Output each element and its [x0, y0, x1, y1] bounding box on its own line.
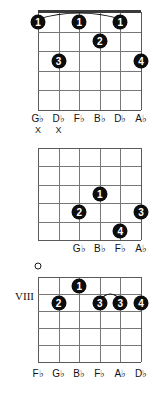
- finger-dot-3-s4-f2: 3: [92, 295, 107, 310]
- fret-line-3: [38, 71, 141, 72]
- fret-line-5: [38, 110, 141, 111]
- note-label-1-s6: A♭: [135, 113, 147, 124]
- fret-line-0: [38, 277, 141, 278]
- note-label-1-s5: D♭: [114, 113, 126, 124]
- note-label-3-s4: F♭: [94, 368, 105, 379]
- finger-dot-1-s4-f3: 1: [92, 187, 107, 202]
- note-label-2-s3: G♭: [73, 243, 86, 254]
- finger-dot-1-s3-f1: 1: [72, 278, 87, 293]
- string-line-2: [59, 148, 60, 240]
- note-label-2-s4: B♭: [94, 243, 106, 254]
- fretboard-grid-3: [38, 277, 141, 362]
- finger-dot-1-s5-f1: 1: [113, 14, 128, 29]
- fret-line-1: [38, 166, 141, 167]
- muted-string-marker-1: X: [35, 126, 41, 135]
- finger-dot-3-s5-f2: 3: [113, 295, 128, 310]
- string-line-6: [141, 277, 142, 362]
- note-label-3-s2: G♭: [52, 368, 65, 379]
- position-marker-3: VIII: [15, 290, 34, 302]
- fret-line-2: [38, 51, 141, 52]
- string-line-4: [100, 12, 101, 110]
- string-line-3: [79, 148, 80, 240]
- finger-dot-3-s2-f3: 3: [51, 54, 66, 69]
- fret-line-1: [38, 294, 141, 295]
- finger-dot-2-s3-f4: 2: [72, 205, 87, 220]
- finger-dot-3-s6-f4: 3: [134, 205, 149, 220]
- fret-line-5: [38, 362, 141, 363]
- fret-line-5: [38, 240, 141, 241]
- string-line-2: [59, 277, 60, 362]
- muted-string-marker-2: X: [56, 126, 62, 135]
- note-label-1-s2: D♭: [52, 113, 64, 124]
- note-label-3-s1: F♭: [32, 368, 43, 379]
- finger-dot-4-s6-f3: 4: [134, 54, 149, 69]
- chord-diagram-sheet: 111234G♭D♭F♭B♭D♭A♭XX1234G♭B♭F♭A♭12334F♭G…: [0, 0, 153, 397]
- finger-dot-1-s1-f1: 1: [31, 14, 46, 29]
- note-label-2-s6: A♭: [135, 243, 147, 254]
- finger-dot-4-s6-f2: 4: [134, 295, 149, 310]
- note-label-3-s3: B♭: [73, 368, 85, 379]
- finger-dot-1-s3-f1: 1: [72, 14, 87, 29]
- fret-line-4: [38, 90, 141, 91]
- finger-dot-2-s4-f2: 2: [92, 34, 107, 49]
- finger-dot-2-s2-f2: 2: [51, 295, 66, 310]
- fret-line-4: [38, 345, 141, 346]
- note-label-2-s5: F♭: [115, 243, 126, 254]
- note-label-1-s4: B♭: [94, 113, 106, 124]
- fret-line-2: [38, 311, 141, 312]
- string-line-1: [38, 148, 39, 240]
- open-string-marker-1: [35, 263, 42, 270]
- string-line-1: [38, 277, 39, 362]
- note-label-1-s3: F♭: [74, 113, 85, 124]
- note-label-3-s6: D♭: [135, 368, 147, 379]
- fret-line-2: [38, 185, 141, 186]
- fret-line-3: [38, 203, 141, 204]
- finger-dot-4-s5-f5: 4: [113, 223, 128, 238]
- fret-line-4: [38, 222, 141, 223]
- fret-line-3: [38, 328, 141, 329]
- note-label-3-s5: A♭: [115, 368, 127, 379]
- string-line-6: [141, 148, 142, 240]
- fret-line-0: [38, 148, 141, 149]
- fret-line-1: [38, 32, 141, 33]
- note-label-1-s1: G♭: [32, 113, 45, 124]
